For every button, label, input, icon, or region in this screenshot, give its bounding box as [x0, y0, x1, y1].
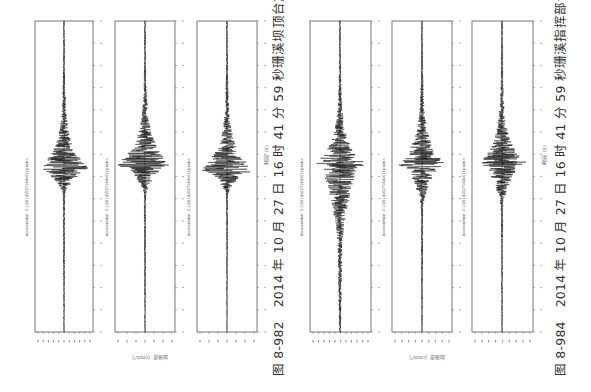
acceleration-trace — [43, 21, 87, 332]
panel-acceleration-title: Acceleration: 2.1(20141027164101) peak= — [300, 158, 304, 236]
seismogram-panel — [115, 20, 184, 342]
seismogram-panel — [310, 20, 380, 342]
panel-acceleration-title: Acceleration: 2.1(20141027164101) peak= — [382, 158, 386, 236]
acceleration-axis-label: 加速度（cm/s²） — [129, 355, 168, 362]
seismogram-panel — [392, 20, 461, 342]
figure-caption: 图 8-9822014 年 10 月 27 日 16 时 41 分 59 秒珊溪… — [268, 0, 287, 376]
figure-caption: 图 8-9842014 年 10 月 27 日 16 时 41 分 59 秒珊溪… — [550, 0, 569, 376]
seismogram-panel — [197, 20, 266, 342]
panel-acceleration-title: Acceleration: 2.1(20141027164101) peak= — [25, 158, 29, 236]
acceleration-trace — [317, 21, 364, 332]
panel-acceleration-title: Acceleration: 2.1(20141027164101) peak= — [187, 158, 191, 236]
figure-caption-text: 2014 年 10 月 27 日 16 时 41 分 59 秒珊溪坝顶台加速度记… — [271, 0, 286, 307]
seismogram-panel — [472, 20, 542, 342]
acceleration-trace — [399, 21, 444, 332]
figure-number: 图 8-982 — [271, 321, 286, 376]
time-axis-label: 时间（s） — [262, 142, 269, 165]
panel-acceleration-title: Acceleration: 2.1(20141027164101) peak= — [105, 158, 109, 236]
acceleration-axis-label: 加速度（cm/s²） — [406, 355, 445, 362]
panel-acceleration-title: Acceleration: 2.1(20141027164101) peak= — [462, 158, 466, 236]
acceleration-trace — [118, 21, 169, 332]
acceleration-trace — [482, 21, 526, 332]
figure-caption-text: 2014 年 10 月 27 日 16 时 41 分 59 秒珊溪指挥部台加速度… — [553, 0, 568, 307]
document-page — [0, 0, 591, 392]
figure-number: 图 8-984 — [553, 321, 568, 376]
seismogram-panel — [35, 20, 102, 342]
time-axis-label: 时间（s） — [540, 142, 547, 165]
acceleration-trace — [202, 21, 250, 332]
